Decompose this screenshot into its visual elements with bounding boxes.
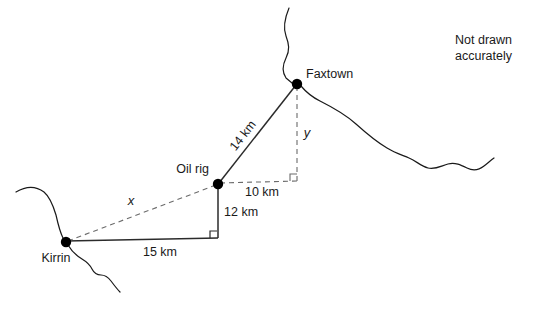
label-unknown-y: y (303, 125, 312, 140)
node-oil-rig[interactable] (213, 179, 223, 189)
label-faxtown: Faxtown (306, 67, 353, 81)
note-not-drawn-accurately-line1: Not drawn (455, 33, 512, 47)
node-faxtown[interactable] (292, 79, 302, 89)
coastline-west-icon (16, 188, 66, 242)
segment-kirrin-base (66, 238, 218, 241)
note-not-drawn-accurately-line2: accurately (455, 49, 513, 63)
coastline-north-icon (283, 8, 292, 83)
segment-oilrig-faxtown (219, 85, 296, 183)
map-diagram: Faxtown Oil rig Kirrin 14 km 10 km 12 km… (0, 0, 538, 310)
coastline-east-icon (301, 86, 494, 170)
diagram-canvas: Faxtown Oil rig Kirrin 14 km 10 km 12 km… (0, 0, 538, 310)
label-distance-15km: 15 km (143, 245, 177, 259)
label-kirrin: Kirrin (41, 251, 70, 265)
label-distance-12km: 12 km (224, 205, 258, 219)
right-angle-marker-upper (290, 174, 297, 181)
segment-oilrig-horizontal-10km (220, 181, 297, 183)
right-angle-marker-lower (210, 231, 217, 238)
label-distance-10km: 10 km (245, 185, 279, 199)
segment-kirrin-oilrig-x (68, 185, 216, 241)
coastline-south-icon (68, 245, 120, 292)
label-unknown-x: x (127, 193, 135, 208)
node-kirrin[interactable] (61, 237, 71, 247)
label-oil-rig: Oil rig (176, 162, 209, 176)
label-distance-14km: 14 km (227, 118, 259, 153)
